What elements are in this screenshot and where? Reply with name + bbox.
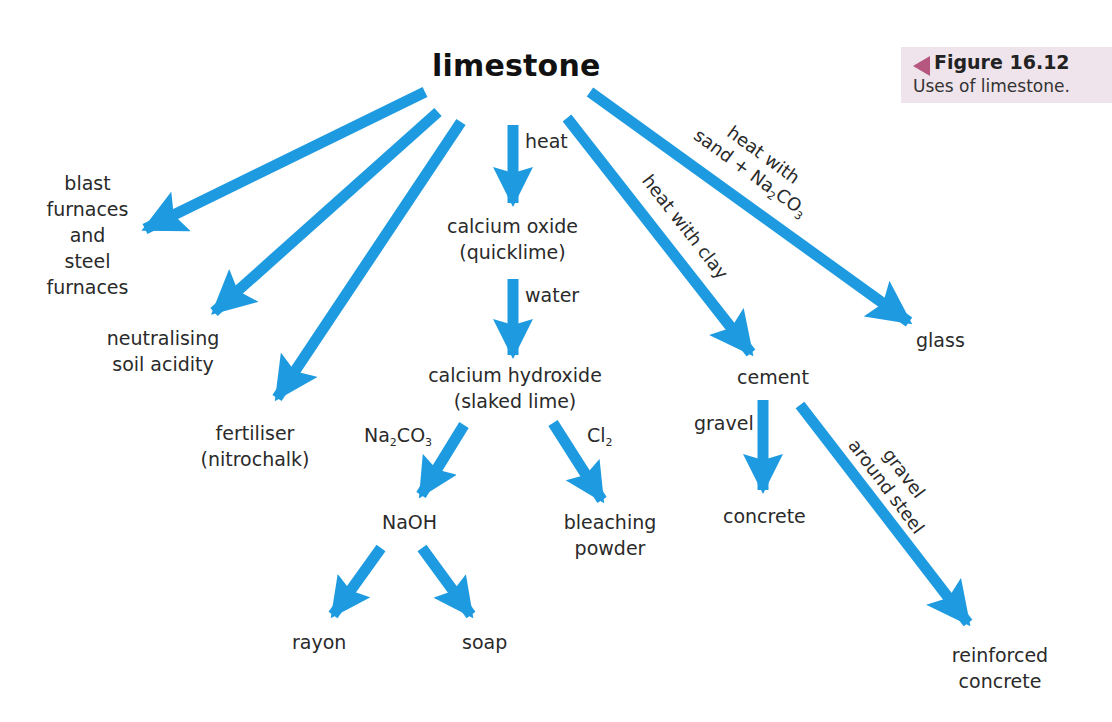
node-concrete: concrete (723, 503, 806, 529)
figure-number: Figure 16.12 (934, 51, 1070, 73)
node-soap: soap (462, 629, 507, 655)
diagram-title: limestone (432, 48, 601, 83)
edge-label-gravel: gravel (694, 410, 754, 436)
edge-label-heat: heat (525, 128, 568, 154)
edge-label-na2co3: Na2CO3 (364, 422, 432, 448)
node-fertiliser: fertiliser (nitrochalk) (190, 420, 320, 472)
node-calcium-hydroxide: calcium hydroxide (slaked lime) (415, 362, 615, 414)
node-cement: cement (737, 364, 809, 390)
node-neutralising-soil-acidity: neutralising soil acidity (98, 325, 228, 377)
node-bleaching-powder: bleaching powder (555, 509, 665, 561)
figure-caption-box: Figure 16.12 Uses of limestone. (901, 47, 1112, 103)
arrow-to-rayon (333, 548, 381, 615)
node-rayon: rayon (292, 629, 346, 655)
node-glass: glass (916, 327, 965, 353)
arrow-to-soap (422, 548, 471, 615)
node-reinforced-concrete: reinforced concrete (940, 642, 1060, 694)
triangle-marker-icon (913, 56, 930, 76)
edge-label-water: water (525, 282, 579, 308)
figure-caption: Uses of limestone. (913, 76, 1070, 96)
edge-label-cl2: Cl2 (587, 422, 613, 448)
node-blast-furnaces: blast furnaces and steel furnaces (30, 170, 145, 300)
node-calcium-oxide: calcium oxide (quicklime) (430, 213, 595, 265)
node-naoh: NaOH (382, 509, 437, 535)
